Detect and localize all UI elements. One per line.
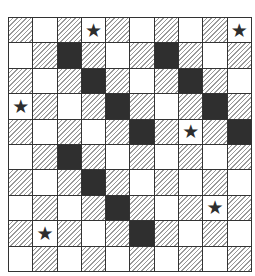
board-cell-hatched[interactable] xyxy=(9,170,32,194)
board-cell-dark[interactable] xyxy=(155,43,178,67)
board-cell-dark[interactable] xyxy=(228,120,251,144)
board-cell-star[interactable]: ★ xyxy=(203,196,226,220)
board-cell-white[interactable] xyxy=(106,145,129,169)
board-cell-white[interactable] xyxy=(203,43,226,67)
board-cell-dark[interactable] xyxy=(203,94,226,118)
board-cell-star[interactable]: ★ xyxy=(228,18,251,42)
board-cell-white[interactable] xyxy=(82,221,105,245)
board-cell-dark[interactable] xyxy=(106,196,129,220)
board-cell-hatched[interactable] xyxy=(155,18,178,42)
board-cell-white[interactable] xyxy=(58,196,81,220)
board-cell-white[interactable] xyxy=(9,43,32,67)
board-cell-star[interactable]: ★ xyxy=(179,120,202,144)
board-cell-dark[interactable] xyxy=(58,43,81,67)
board-cell-hatched[interactable] xyxy=(33,247,56,271)
board-cell-star[interactable]: ★ xyxy=(82,18,105,42)
board-cell-hatched[interactable] xyxy=(9,69,32,93)
board-cell-hatched[interactable] xyxy=(58,170,81,194)
board-cell-white[interactable] xyxy=(155,196,178,220)
board-cell-white[interactable] xyxy=(106,247,129,271)
board-cell-hatched[interactable] xyxy=(155,120,178,144)
board-cell-hatched[interactable] xyxy=(203,18,226,42)
board-cell-star[interactable]: ★ xyxy=(33,221,56,245)
board-cell-hatched[interactable] xyxy=(130,196,153,220)
board-cell-white[interactable] xyxy=(179,170,202,194)
board-cell-white[interactable] xyxy=(228,170,251,194)
board-cell-hatched[interactable] xyxy=(82,247,105,271)
board-cell-white[interactable] xyxy=(33,120,56,144)
board-cell-hatched[interactable] xyxy=(228,247,251,271)
board-cell-hatched[interactable] xyxy=(130,145,153,169)
board-cell-dark[interactable] xyxy=(58,145,81,169)
board-cell-hatched[interactable] xyxy=(203,69,226,93)
board-cell-dark[interactable] xyxy=(82,69,105,93)
board-cell-white[interactable] xyxy=(228,221,251,245)
board-cell-white[interactable] xyxy=(155,94,178,118)
board-cell-white[interactable] xyxy=(179,18,202,42)
board-cell-white[interactable] xyxy=(130,69,153,93)
board-cell-dark[interactable] xyxy=(82,170,105,194)
board-cell-hatched[interactable] xyxy=(228,43,251,67)
board-cell-hatched[interactable] xyxy=(106,69,129,93)
board-cell-white[interactable] xyxy=(9,247,32,271)
board-cell-hatched[interactable] xyxy=(155,221,178,245)
board-cell-white[interactable] xyxy=(33,69,56,93)
board-cell-hatched[interactable] xyxy=(203,120,226,144)
board-cell-hatched[interactable] xyxy=(82,43,105,67)
board-cell-white[interactable] xyxy=(203,145,226,169)
board-cell-white[interactable] xyxy=(33,170,56,194)
board-cell-hatched[interactable] xyxy=(130,247,153,271)
board-cell-hatched[interactable] xyxy=(155,170,178,194)
board-cell-hatched[interactable] xyxy=(179,145,202,169)
board-cell-hatched[interactable] xyxy=(9,120,32,144)
board-cell-hatched[interactable] xyxy=(106,120,129,144)
board-cell-hatched[interactable] xyxy=(9,221,32,245)
board-cell-white[interactable] xyxy=(58,247,81,271)
board-cell-hatched[interactable] xyxy=(179,196,202,220)
board-cell-hatched[interactable] xyxy=(106,18,129,42)
board-cell-hatched[interactable] xyxy=(82,145,105,169)
board-cell-white[interactable] xyxy=(9,145,32,169)
board-cell-white[interactable] xyxy=(179,221,202,245)
board-cell-hatched[interactable] xyxy=(130,94,153,118)
board-cell-hatched[interactable] xyxy=(58,221,81,245)
board-cell-hatched[interactable] xyxy=(33,145,56,169)
board-cell-white[interactable] xyxy=(130,170,153,194)
board-cell-star[interactable]: ★ xyxy=(9,94,32,118)
board-cell-white[interactable] xyxy=(130,18,153,42)
board-cell-hatched[interactable] xyxy=(179,247,202,271)
board-cell-white[interactable] xyxy=(155,145,178,169)
board-cell-dark[interactable] xyxy=(130,120,153,144)
board-cell-hatched[interactable] xyxy=(82,94,105,118)
board-cell-dark[interactable] xyxy=(179,69,202,93)
board-cell-hatched[interactable] xyxy=(33,43,56,67)
board-cell-hatched[interactable] xyxy=(228,94,251,118)
board-cell-white[interactable] xyxy=(58,94,81,118)
board-cell-hatched[interactable] xyxy=(228,145,251,169)
board-cell-hatched[interactable] xyxy=(33,94,56,118)
board-cell-hatched[interactable] xyxy=(155,69,178,93)
board-cell-dark[interactable] xyxy=(130,221,153,245)
board-cell-white[interactable] xyxy=(33,18,56,42)
board-cell-white[interactable] xyxy=(82,120,105,144)
board-cell-dark[interactable] xyxy=(106,94,129,118)
board-cell-hatched[interactable] xyxy=(130,43,153,67)
board-cell-white[interactable] xyxy=(203,247,226,271)
board-cell-white[interactable] xyxy=(155,247,178,271)
board-cell-hatched[interactable] xyxy=(33,196,56,220)
board-cell-hatched[interactable] xyxy=(228,196,251,220)
board-cell-hatched[interactable] xyxy=(58,120,81,144)
board-cell-hatched[interactable] xyxy=(106,170,129,194)
board-cell-hatched[interactable] xyxy=(58,69,81,93)
board-cell-hatched[interactable] xyxy=(179,94,202,118)
board-cell-hatched[interactable] xyxy=(203,221,226,245)
board-cell-white[interactable] xyxy=(106,43,129,67)
board-cell-hatched[interactable] xyxy=(203,170,226,194)
board-cell-hatched[interactable] xyxy=(82,196,105,220)
board-cell-hatched[interactable] xyxy=(9,18,32,42)
board-cell-hatched[interactable] xyxy=(179,43,202,67)
board-cell-white[interactable] xyxy=(9,196,32,220)
board-cell-hatched[interactable] xyxy=(106,221,129,245)
board-cell-white[interactable] xyxy=(228,69,251,93)
board-cell-hatched[interactable] xyxy=(58,18,81,42)
